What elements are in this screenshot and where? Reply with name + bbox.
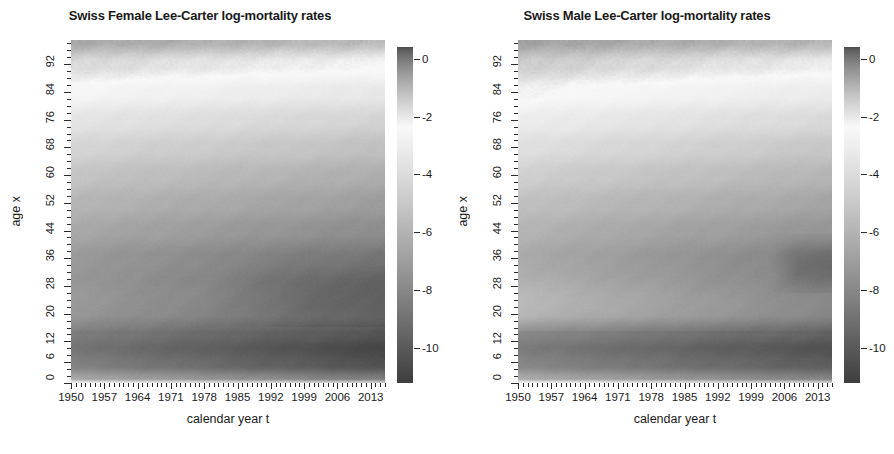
x-axis-minor-tick	[152, 383, 153, 387]
x-axis-minor-tick	[656, 383, 657, 387]
x-axis-minor-tick	[309, 383, 310, 387]
y-axis-major-tick	[64, 341, 71, 342]
x-axis-ticks-male	[518, 383, 832, 390]
y-axis-tick-label: 92	[44, 55, 56, 67]
y-axis-major-tick	[64, 258, 71, 259]
x-axis-minor-tick	[594, 383, 595, 387]
y-axis-tick-label: 44	[491, 222, 503, 234]
x-axis-minor-tick	[280, 383, 281, 387]
x-axis-minor-tick	[765, 383, 766, 387]
x-axis-minor-tick	[123, 383, 124, 387]
y-axis-major-tick	[64, 203, 71, 204]
colorbar-female	[397, 47, 413, 383]
x-axis-minor-tick	[794, 383, 795, 387]
y-axis-major-tick	[511, 258, 518, 259]
y-axis-major-tick	[64, 120, 71, 121]
x-axis-minor-tick	[608, 383, 609, 387]
x-axis-minor-tick	[214, 383, 215, 387]
x-axis-minor-tick	[723, 383, 724, 387]
y-axis-tick-label: 20	[44, 305, 56, 317]
heatmap-canvas-female	[71, 40, 385, 383]
x-axis-tick-label: 1957	[539, 391, 565, 403]
x-axis-tick-label: 1999	[291, 391, 317, 403]
y-axis-major-tick	[511, 147, 518, 148]
y-axis-major-tick	[64, 286, 71, 287]
x-axis-minor-tick	[646, 383, 647, 387]
x-axis-minor-tick	[76, 383, 77, 387]
colorbar-tick	[861, 117, 867, 118]
x-axis-major-tick	[337, 383, 338, 389]
colorbar-male	[844, 47, 860, 383]
x-axis-minor-tick	[799, 383, 800, 387]
x-axis-minor-tick	[180, 383, 181, 387]
x-axis-minor-tick	[333, 383, 334, 387]
colorbar-tick	[861, 348, 867, 349]
colorbar-tick	[861, 290, 867, 291]
y-axis-tick-label: 28	[44, 277, 56, 289]
y-axis-labels-female: 061220283644526068768492	[0, 40, 64, 383]
x-axis-minor-tick	[233, 383, 234, 387]
x-axis-tick-label: 1957	[92, 391, 118, 403]
y-axis-tick-label: 84	[44, 83, 56, 95]
x-axis-tick-label: 1964	[572, 391, 598, 403]
x-axis-minor-tick	[314, 383, 315, 387]
y-axis-tick-label: 6	[491, 353, 503, 359]
x-axis-minor-tick	[95, 383, 96, 387]
x-axis-minor-tick	[623, 383, 624, 387]
x-axis-minor-tick	[665, 383, 666, 387]
y-axis-tick-label: 20	[491, 305, 503, 317]
x-axis-minor-tick	[808, 383, 809, 387]
x-axis-minor-tick	[780, 383, 781, 387]
x-axis-minor-tick	[375, 383, 376, 387]
colorbar-tick	[861, 59, 867, 60]
y-axis-major-tick	[511, 120, 518, 121]
y-axis-tick-label: 12	[491, 332, 503, 344]
x-axis-minor-tick	[604, 383, 605, 387]
x-axis-minor-tick	[176, 383, 177, 387]
x-axis-tick-label: 2006	[325, 391, 351, 403]
colorbar-tick	[414, 174, 420, 175]
x-axis-minor-tick	[637, 383, 638, 387]
x-axis-minor-tick	[770, 383, 771, 387]
x-axis-minor-tick	[147, 383, 148, 387]
x-axis-minor-tick	[542, 383, 543, 387]
x-axis-tick-label: 1992	[258, 391, 284, 403]
x-axis-minor-tick	[90, 383, 91, 387]
x-axis-minor-tick	[746, 383, 747, 387]
x-axis-minor-tick	[713, 383, 714, 387]
x-axis-minor-tick	[356, 383, 357, 387]
x-axis-major-tick	[271, 383, 272, 389]
x-axis-tick-label: 1992	[705, 391, 731, 403]
x-axis-minor-tick	[195, 383, 196, 387]
y-axis-major-tick	[64, 383, 71, 384]
y-axis-major-tick	[64, 314, 71, 315]
x-axis-minor-tick	[247, 383, 248, 387]
colorbar-tick	[414, 290, 420, 291]
y-axis-tick-label: 52	[491, 194, 503, 206]
x-axis-minor-tick	[290, 383, 291, 387]
colorbar-tick-label: -8	[422, 284, 432, 296]
x-axis-minor-tick	[561, 383, 562, 387]
colorbar-tick	[414, 59, 420, 60]
y-axis-major-tick	[511, 203, 518, 204]
y-axis-tick-label: 0	[491, 374, 503, 380]
x-axis-minor-tick	[732, 383, 733, 387]
colorbar-tick	[414, 117, 420, 118]
x-axis-minor-tick	[613, 383, 614, 387]
colorbar-tick-label: -2	[869, 111, 879, 123]
colorbar-tick	[861, 232, 867, 233]
x-axis-minor-tick	[385, 383, 386, 387]
x-axis-title-male: calendar year t	[518, 412, 832, 426]
y-axis-major-tick	[64, 175, 71, 176]
x-axis-minor-tick	[742, 383, 743, 387]
x-axis-tick-label: 1978	[191, 391, 217, 403]
x-axis-tick-label: 1971	[158, 391, 184, 403]
colorbar-tick-label: 0	[869, 53, 875, 65]
y-axis-major-tick	[511, 64, 518, 65]
x-axis-minor-tick	[228, 383, 229, 387]
x-axis-minor-tick	[361, 383, 362, 387]
x-axis-minor-tick	[580, 383, 581, 387]
colorbar-tick	[414, 348, 420, 349]
x-axis-minor-tick	[380, 383, 381, 387]
y-axis-major-tick	[64, 147, 71, 148]
